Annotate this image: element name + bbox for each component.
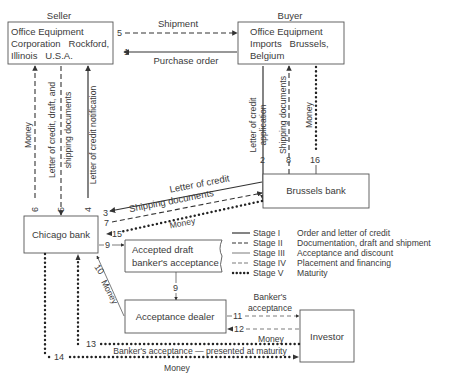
flow-purchase-order: 1 Purchase order — [124, 47, 237, 66]
flow-9a-number: 9 — [105, 240, 110, 250]
flow-9b-number: 9 — [173, 283, 178, 293]
flow-2-label-2: application — [258, 104, 268, 145]
brussels-bank-node: Brussels bank — [263, 174, 369, 208]
flow-8-number: 8 — [286, 155, 291, 165]
buyer-line-2: Imports Brussels, — [250, 38, 329, 49]
flow-7-number: 7 — [104, 218, 109, 228]
flow-5-number: 5 — [117, 28, 122, 38]
flow-5b-label-2: shipping documents — [63, 92, 73, 168]
flow-16-number: 16 — [310, 155, 320, 165]
flow-money-10: 10 Money — [92, 256, 124, 316]
flow-3-number: 3 — [103, 208, 108, 218]
accepted-draft-line-2: banker's acceptance — [132, 257, 219, 268]
investor-node: Investor — [300, 310, 354, 362]
legend-stage-5-desc: Maturity — [297, 268, 328, 278]
legend-stage-2-label: Stage II — [253, 238, 283, 248]
legend-stage-1-label: Stage I — [253, 228, 280, 238]
flow-11-label-2: acceptance — [248, 303, 292, 313]
legend-item-stage-1: Stage I Order and letter of credit — [232, 228, 391, 238]
legend-item-stage-5: Stage V Maturity — [233, 268, 328, 278]
flow-4-number: 4 — [83, 207, 93, 212]
acceptance-dealer-label: Acceptance dealer — [136, 311, 215, 322]
flow-15-label: Money — [169, 216, 197, 231]
flow-10-label: Money — [99, 278, 120, 306]
buyer-line-1: Office Equipment — [250, 26, 323, 37]
legend-stage-5-label: Stage V — [253, 268, 284, 278]
flow-11-label-1: Banker's — [253, 292, 286, 302]
flow-13-label: Banker's acceptance — presented at matur… — [113, 346, 287, 356]
buyer-node: Buyer Office Equipment Imports Brussels,… — [238, 10, 344, 64]
investor-label: Investor — [310, 331, 344, 342]
flow-10-number: 10 — [92, 262, 106, 276]
flow-9-to-accepted-draft: 9 — [99, 240, 124, 250]
flow-shipment-label: Shipment — [158, 18, 198, 29]
letter-of-credit-flow-diagram: Seller Office Equipment Corporation Rock… — [0, 0, 461, 376]
seller-header: Seller — [47, 10, 71, 21]
flow-16-label: Money — [304, 101, 314, 127]
legend-item-stage-4: Stage IV Placement and financing — [232, 258, 391, 268]
legend-stage-2-desc: Documentation, draft and shipment — [297, 238, 431, 248]
legend-stage-3-label: Stage III — [253, 248, 285, 258]
flow-shipment: 5 Shipment — [117, 18, 237, 38]
flow-bankers-acceptance-11: 11 Banker's acceptance — [227, 292, 299, 321]
flow-11-number: 11 — [233, 311, 242, 321]
legend-stage-4-desc: Placement and financing — [297, 258, 391, 268]
buyer-header: Buyer — [278, 10, 303, 21]
brussels-bank-label: Brussels bank — [286, 185, 346, 196]
flow-2-label-1: Letter of credit — [248, 97, 258, 153]
flow-13-number: 13 — [86, 339, 96, 349]
legend-stage-1-desc: Order and letter of credit — [297, 228, 391, 238]
flow-1-number: 1 — [124, 47, 129, 57]
flow-12-number: 12 — [234, 324, 244, 334]
flow-15-number: 15 — [112, 229, 122, 239]
seller-line-1: Office Equipment — [11, 26, 84, 37]
flow-lc-notification: Letter of credit notification 4 — [83, 66, 98, 212]
acceptance-dealer-node: Acceptance dealer — [125, 300, 226, 333]
legend-stage-3-desc: Acceptance and discount — [297, 248, 394, 258]
flow-5b-label-1: Letter of credit, draft, and — [47, 82, 57, 178]
flow-5b-number: 5 — [56, 207, 66, 212]
chicago-bank-label: Chicago bank — [32, 229, 90, 240]
flow-14-number: 14 — [54, 352, 64, 362]
seller-line-2: Corporation Rockford, — [11, 38, 109, 49]
flow-14-label: Money — [164, 363, 190, 373]
accepted-draft-node: Accepted draft banker's acceptance — [125, 240, 222, 272]
flow-money-6: Money 6 — [23, 66, 40, 212]
flow-purchase-order-label: Purchase order — [154, 55, 219, 66]
flow-2-number: 2 — [260, 155, 265, 165]
legend: Stage I Order and letter of credit Stage… — [232, 228, 431, 278]
legend-item-stage-2: Stage II Documentation, draft and shipme… — [232, 238, 431, 248]
flow-8-label: Shipping documents — [278, 76, 288, 154]
legend-stage-4-label: Stage IV — [253, 258, 286, 268]
seller-node: Seller Office Equipment Corporation Rock… — [8, 10, 113, 64]
legend-item-stage-3: Stage III Acceptance and discount — [232, 248, 394, 258]
flow-9-to-dealer: 9 — [173, 272, 178, 300]
buyer-line-3: Belgium — [250, 50, 284, 61]
flow-money-12: 12 Money — [227, 324, 299, 344]
accepted-draft-line-1: Accepted draft — [132, 244, 194, 255]
chicago-bank-node: Chicago bank — [24, 216, 98, 253]
seller-line-3: Illinois U.S.A. — [11, 50, 73, 61]
flow-12-label: Money — [258, 334, 284, 344]
flow-6-label: Money — [23, 121, 33, 147]
flow-documents-5: Letter of credit, draft, and shipping do… — [47, 66, 73, 215]
flow-4-label: Letter of credit notification — [88, 86, 98, 185]
flow-6-number: 6 — [30, 207, 40, 212]
